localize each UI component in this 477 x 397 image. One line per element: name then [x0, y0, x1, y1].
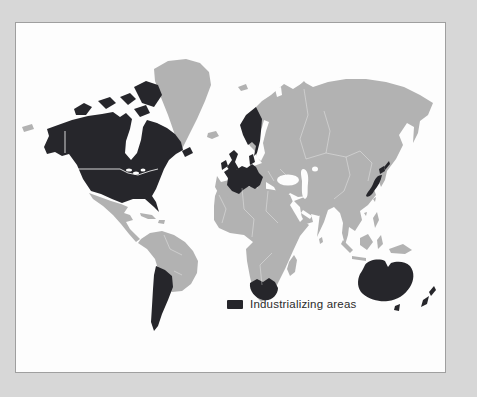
region-arctic-islands-1 — [74, 103, 92, 115]
region-borneo — [360, 234, 373, 250]
region-hispaniola — [158, 220, 165, 224]
region-sumatra — [341, 240, 353, 253]
region-australia — [358, 260, 413, 302]
region-canada-usa — [44, 112, 183, 212]
region-mexico-central-america — [89, 193, 140, 242]
map-legend: Industrializing areas — [227, 298, 356, 310]
legend-label: Industrializing areas — [250, 298, 356, 310]
region-arctic-islands-3 — [120, 93, 136, 105]
water-great-lake-3 — [141, 169, 146, 172]
water-great-lake-1 — [126, 168, 132, 171]
region-java — [352, 256, 366, 261]
region-sri-lanka — [319, 237, 323, 244]
region-hainan — [364, 212, 367, 216]
region-new-zealand-south — [421, 296, 429, 307]
region-arctic-islands-4 — [134, 105, 150, 117]
legend-swatch-industrializing — [227, 300, 243, 309]
region-new-guinea — [389, 244, 412, 254]
region-new-zealand-north — [429, 286, 436, 296]
region-sulawesi — [377, 235, 383, 249]
region-chukotka-fragment — [22, 124, 34, 132]
region-newfoundland — [182, 147, 193, 157]
region-svalbard — [238, 84, 248, 91]
water-aral-sea — [312, 167, 318, 172]
region-arctic-islands-2 — [98, 97, 116, 109]
water-black-sea — [277, 175, 299, 186]
map-panel: Industrializing areas — [15, 22, 446, 373]
region-iceland — [207, 131, 219, 139]
region-philippines — [373, 212, 379, 228]
region-cuba — [140, 213, 156, 219]
region-southern-south-america — [151, 266, 173, 331]
figure-frame: Industrializing areas — [0, 0, 477, 397]
world-map — [16, 23, 445, 372]
region-tasmania — [394, 304, 400, 311]
region-united-kingdom — [227, 150, 239, 172]
region-ireland — [221, 160, 228, 170]
